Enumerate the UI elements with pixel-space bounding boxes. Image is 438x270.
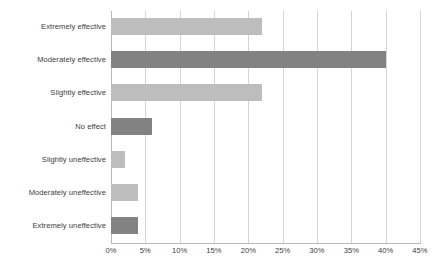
y-axis-label: Slightly effective [2, 88, 106, 97]
bar [111, 51, 386, 68]
bar-row [111, 84, 420, 101]
plot-area [111, 11, 420, 243]
bar-row [111, 184, 420, 201]
y-axis-category-labels: Extremely effectiveModerately effectiveS… [0, 11, 106, 243]
x-axis-tick-labels: 0%5%10%15%20%25%30%35%40%45% [0, 246, 438, 260]
bar-row [111, 51, 420, 68]
bar-row [111, 118, 420, 135]
bar [111, 118, 152, 135]
y-axis-label: Extremely effective [2, 22, 106, 31]
bar-row [111, 217, 420, 234]
bar-row [111, 18, 420, 35]
gridline [420, 11, 421, 243]
y-axis-label: Slightly uneffective [2, 155, 106, 164]
bar [111, 18, 262, 35]
y-axis-label: Moderately uneffective [2, 188, 106, 197]
bar [111, 151, 125, 168]
y-axis-label: Extremely uneffective [2, 221, 106, 230]
x-axis-baseline [111, 243, 421, 244]
x-axis-tick-label: 45% [400, 246, 438, 256]
horizontal-bar-chart: Extremely effectiveModerately effectiveS… [0, 0, 438, 270]
bar [111, 217, 138, 234]
y-axis-label: Moderately effective [2, 55, 106, 64]
bar [111, 184, 138, 201]
bar [111, 84, 262, 101]
bar-row [111, 151, 420, 168]
y-axis-label: No effect [2, 122, 106, 131]
